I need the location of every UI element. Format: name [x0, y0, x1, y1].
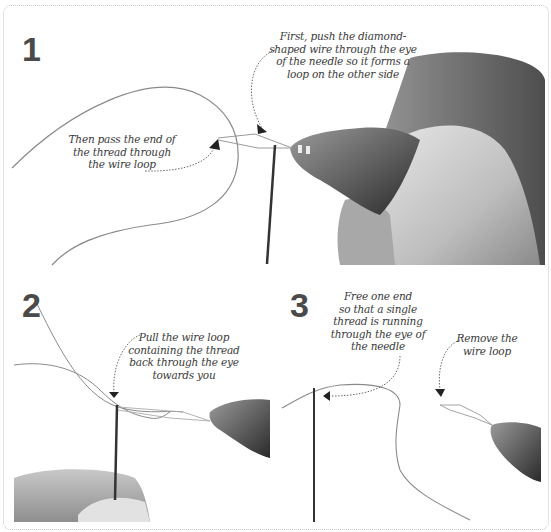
step-3-caption-free-end: Free one end so that a single thread is … [330, 290, 426, 353]
step-number-1: 1 [22, 32, 41, 66]
wire-loop [440, 405, 492, 425]
step-2-caption-pull-loop: Pull the wire loop containing the thread… [128, 331, 240, 381]
needle-threader [491, 422, 541, 482]
wire-loop [218, 134, 292, 148]
thread [12, 87, 238, 265]
wire-loop [118, 407, 210, 421]
step-1-caption-pass-thread: Then pass the end of the thread through … [66, 133, 178, 171]
step-3-caption-remove-loop: Remove the wire loop [452, 332, 522, 357]
step-number-3: 3 [290, 288, 309, 322]
needle [267, 145, 275, 264]
step-number-2: 2 [22, 288, 41, 322]
panel-3-photo [282, 340, 541, 522]
needle-threader [209, 399, 270, 458]
step-1-caption-push-wire: First, push the diamond- shaped wire thr… [268, 30, 418, 80]
